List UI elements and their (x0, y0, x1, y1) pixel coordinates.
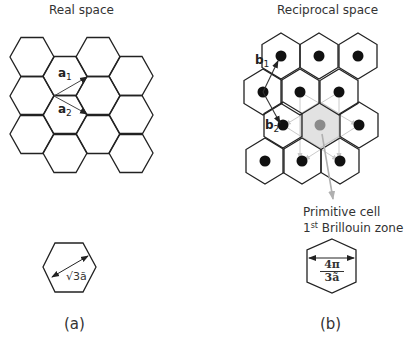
reciprocal-lattice-point (260, 156, 271, 167)
real-lattice-hexagon (76, 77, 120, 116)
reciprocal-lattice-point (297, 156, 308, 167)
reciprocal-space-title: Reciprocal space (277, 3, 378, 17)
a1-label: a1 (58, 66, 72, 82)
reciprocal-lattice-point (314, 51, 325, 62)
callout-primitive-cell: Primitive cell (303, 205, 380, 219)
real-lattice-hexagon (76, 38, 120, 77)
b2-label-name: b (265, 118, 274, 132)
real-lattice-hexagon (43, 134, 87, 173)
reciprocal-lattice-point (276, 51, 287, 62)
real-unit-cell (43, 243, 96, 292)
real-lattice-hexagon (109, 96, 153, 135)
a2-label-name: a (58, 102, 66, 116)
callout-brillouin-text: Brillouin zone (318, 221, 403, 235)
a2-label-sub: 2 (66, 108, 72, 118)
a2-label: a2 (58, 102, 72, 118)
real-space-honeycomb-lattice (10, 38, 153, 173)
caption-a: (a) (64, 315, 85, 333)
b1-label-name: b (255, 53, 264, 67)
callout-brillouin-zone: 1st Brillouin zone (303, 219, 403, 235)
b1-label-sub: 1 (264, 59, 270, 69)
real-unit-cell-label: √3ã (66, 270, 87, 283)
gamma-point-dot (315, 120, 326, 131)
real-lattice-hexagon (76, 115, 120, 154)
fraction-denominator: 3ã (320, 272, 344, 284)
callout-ordinal-suffix: st (311, 221, 318, 230)
caption-b: (b) (320, 315, 341, 333)
real-lattice-hexagon (10, 77, 54, 116)
reciprocal-lattice-point (335, 156, 346, 167)
reciprocal-lattice-point (353, 51, 364, 62)
reciprocal-lattice-point (354, 120, 365, 131)
b2-label: b2 (265, 118, 279, 134)
reciprocal-lattice-point (334, 87, 345, 98)
b1-label: b1 (255, 53, 269, 69)
real-space-title: Real space (49, 3, 114, 17)
real-lattice-hexagon (10, 115, 54, 154)
real-unit-hexagon (43, 243, 96, 292)
real-lattice-hexagon (10, 38, 54, 77)
reciprocal-lattice-point (295, 87, 306, 98)
a1-label-sub: 1 (66, 72, 72, 82)
real-lattice-hexagon (109, 134, 153, 173)
callout-ordinal-number: 1 (303, 221, 311, 235)
b2-label-sub: 2 (274, 124, 280, 134)
a1-label-name: a (58, 66, 66, 80)
reciprocal-unit-cell-label: 4π 3ã (320, 259, 344, 284)
real-lattice-hexagon (109, 57, 153, 96)
lattice-svg (0, 0, 417, 344)
